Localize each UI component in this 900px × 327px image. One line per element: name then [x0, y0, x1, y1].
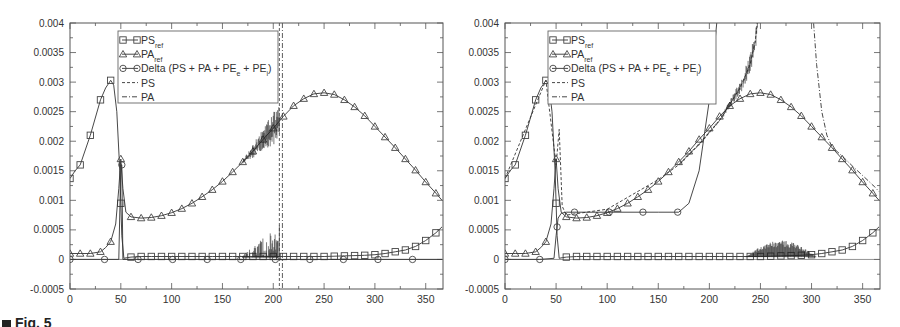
y-tick-label: 0.0005 — [33, 224, 64, 235]
legend-label: PS — [141, 77, 155, 89]
y-tick-label: 0.0035 — [33, 47, 64, 58]
y-tick-label: 0.003 — [474, 77, 499, 88]
legend-label: PA — [571, 91, 584, 103]
x-tick-label: 0 — [67, 293, 73, 305]
y-tick-label: 0.0015 — [468, 165, 499, 176]
figure-caption: Fig. 5 — [2, 315, 52, 327]
x-tick-label: 300 — [803, 293, 821, 305]
y-tick-label: -0.0005 — [465, 284, 499, 295]
y-tick-label: 0.002 — [474, 136, 499, 147]
y-tick-label: 0.001 — [474, 195, 499, 206]
left-chart-panel: 050100150200250300350-0.000500.00050.001… — [30, 18, 443, 306]
figure: 050100150200250300350-0.000500.00050.001… — [0, 0, 900, 327]
y-tick-label: 0.002 — [39, 136, 64, 147]
caption-marker-icon — [2, 320, 11, 327]
y-tick-label: 0.0025 — [468, 106, 499, 117]
y-tick-label: 0.004 — [474, 18, 499, 29]
x-tick-label: 350 — [417, 293, 435, 305]
y-tick-label: 0.003 — [39, 77, 64, 88]
x-tick-label: 200 — [701, 293, 719, 305]
legend: PSrefPArefDelta (PS + PA + PEe + PEi)PSP… — [118, 31, 278, 103]
y-tick-label: 0.004 — [39, 18, 64, 29]
y-tick-label: 0.0005 — [468, 224, 499, 235]
x-tick-label: 250 — [752, 293, 770, 305]
x-tick-label: 100 — [163, 293, 181, 305]
y-tick-label: -0.0005 — [30, 284, 64, 295]
series-delta — [67, 162, 442, 263]
x-tick-label: 100 — [598, 293, 616, 305]
y-tick-label: 0.0035 — [468, 47, 499, 58]
x-tick-label: 0 — [502, 293, 508, 305]
legend-label: PS — [571, 77, 585, 89]
y-tick-label: 0.0025 — [33, 106, 64, 117]
y-tick-label: 0 — [493, 254, 499, 265]
right-chart-panel: 050100150200250300350-0.000500.00050.001… — [465, 0, 880, 305]
x-tick-label: 150 — [214, 293, 232, 305]
figure-caption-text: Fig. 5 — [15, 315, 52, 327]
y-tick-label: 0.001 — [39, 195, 64, 206]
legend: PSrefPArefDelta (PS + PA + PEe + PEi)PSP… — [548, 31, 716, 104]
x-tick-label: 50 — [115, 293, 127, 305]
x-tick-label: 200 — [265, 293, 283, 305]
series-ps-ref — [502, 77, 879, 260]
x-tick-label: 350 — [854, 293, 872, 305]
x-tick-label: 300 — [366, 293, 384, 305]
legend-label: PA — [141, 91, 154, 103]
x-tick-label: 250 — [315, 293, 333, 305]
x-tick-label: 150 — [650, 293, 668, 305]
x-tick-label: 50 — [550, 293, 562, 305]
series-ps-ref — [67, 77, 442, 260]
y-tick-label: 0 — [58, 254, 64, 265]
y-tick-label: 0.0015 — [33, 165, 64, 176]
